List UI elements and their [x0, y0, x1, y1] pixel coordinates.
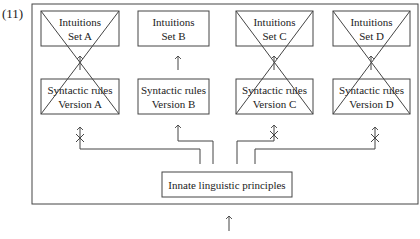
- rules-label-a: Syntactic rules Version A: [41, 79, 119, 114]
- example-number: (11): [2, 6, 23, 22]
- innate-principles-label: Innate linguistic principles: [162, 172, 292, 197]
- intuitions-label-c: Intuitions Set C: [236, 11, 313, 46]
- intuitions-label-line1: Intuitions: [59, 15, 101, 29]
- intuitions-label-line2: Set C: [262, 29, 286, 43]
- intuitions-label-b: Intuitions Set B: [138, 11, 209, 46]
- intuitions-label-line2: Set B: [161, 29, 185, 43]
- rules-label-b: Syntactic rules Version B: [138, 79, 209, 114]
- connector-innate-to-a: [80, 127, 200, 164]
- intuitions-label-line2: Set D: [359, 29, 384, 43]
- rules-label-line1: Syntactic rules: [242, 83, 307, 97]
- intuitions-label-line1: Intuitions: [253, 15, 295, 29]
- rules-label-d: Syntactic rules Version D: [333, 79, 410, 114]
- intuitions-label-line2: Set A: [68, 29, 92, 43]
- connector-innate-to-d: [255, 127, 375, 164]
- intuitions-label-a: Intuitions Set A: [41, 11, 119, 46]
- connector-innate-to-b: [178, 125, 213, 164]
- rules-label-line2: Version D: [349, 97, 393, 111]
- rules-label-line2: Version B: [152, 97, 196, 111]
- rules-label-line1: Syntactic rules: [47, 83, 112, 97]
- rules-label-line2: Version C: [253, 97, 297, 111]
- rules-label-line1: Syntactic rules: [141, 83, 206, 97]
- intuitions-label-line1: Intuitions: [152, 15, 194, 29]
- rules-label-line2: Version A: [58, 97, 102, 111]
- rules-label-c: Syntactic rules Version C: [236, 79, 313, 114]
- innate-principles-text: Innate linguistic principles: [168, 178, 285, 192]
- rules-label-line1: Syntactic rules: [339, 83, 404, 97]
- intuitions-label-d: Intuitions Set D: [333, 11, 410, 46]
- intuitions-label-line1: Intuitions: [350, 15, 392, 29]
